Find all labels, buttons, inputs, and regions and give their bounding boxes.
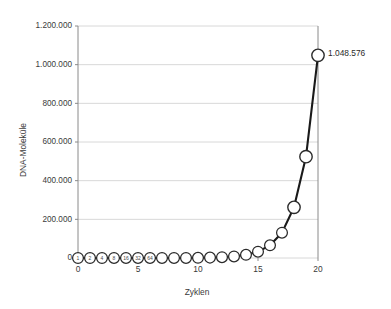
y-tick-label: 1.000.000 bbox=[36, 60, 73, 69]
chart-figure: 0200.000400.000600.000800.0001.000.0001.… bbox=[0, 0, 391, 309]
x-tick-label: 5 bbox=[136, 264, 141, 274]
data-point-marker bbox=[288, 201, 300, 213]
data-point-label: 8 bbox=[113, 255, 116, 261]
data-point-marker bbox=[253, 246, 264, 257]
data-point-label: 32 bbox=[135, 255, 141, 261]
y-axis-title: DNA-Moleküle bbox=[18, 123, 28, 177]
y-tick-label: 1.200.000 bbox=[36, 21, 73, 30]
y-tick-label: 400.000 bbox=[42, 176, 72, 185]
data-point-marker bbox=[241, 249, 252, 260]
x-tick-label: 10 bbox=[193, 264, 203, 274]
data-point-marker bbox=[157, 253, 168, 264]
data-point-marker bbox=[229, 251, 240, 262]
y-tick-label: 0 bbox=[67, 253, 72, 262]
data-point-label: 64 bbox=[147, 255, 153, 261]
data-annotations: 1.048.576 bbox=[328, 48, 366, 58]
data-point-marker bbox=[277, 227, 288, 238]
y-tick-label: 600.000 bbox=[42, 137, 72, 146]
data-point-marker bbox=[265, 240, 276, 251]
data-point-marker bbox=[169, 253, 180, 264]
x-axis-title: Zyklen bbox=[185, 287, 210, 297]
x-tick-label: 20 bbox=[313, 264, 323, 274]
data-point-marker bbox=[181, 253, 192, 264]
y-tick-label: 200.000 bbox=[42, 215, 72, 224]
y-axis-ticks: 0200.000400.000600.000800.0001.000.0001.… bbox=[36, 21, 78, 262]
data-point-marker bbox=[205, 252, 216, 263]
data-point-marker bbox=[312, 49, 324, 61]
data-annotation-label: 1.048.576 bbox=[328, 48, 366, 58]
data-point-label: 2 bbox=[89, 255, 92, 261]
gridlines bbox=[78, 26, 318, 258]
data-point-marker bbox=[217, 252, 228, 263]
data-point-markers: 1248163264 bbox=[73, 49, 325, 263]
y-tick-label: 800.000 bbox=[42, 99, 72, 108]
data-point-label: 1 bbox=[77, 255, 80, 261]
x-tick-label: 15 bbox=[253, 264, 263, 274]
data-point-marker bbox=[193, 252, 204, 263]
x-tick-label: 0 bbox=[76, 264, 81, 274]
data-point-label: 16 bbox=[123, 255, 129, 261]
data-point-marker bbox=[300, 150, 312, 162]
pcr-amplification-chart: 0200.000400.000600.000800.0001.000.0001.… bbox=[0, 0, 391, 309]
data-point-label: 4 bbox=[101, 255, 104, 261]
